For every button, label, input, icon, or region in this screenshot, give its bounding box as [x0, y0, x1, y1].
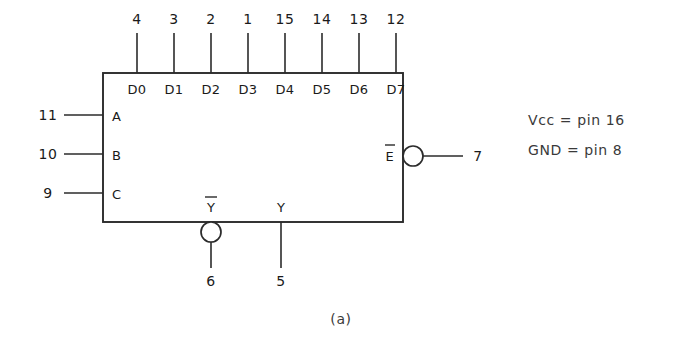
output-ybar-group: Y 6	[201, 197, 221, 289]
pin-number-d6: 13	[350, 11, 369, 27]
logic-symbol-diagram: 4 3 2 1 15 14 13 12 D0 D1 D2 D3 D4 D5 D6…	[0, 0, 683, 353]
pin-number-d1: 3	[169, 11, 178, 27]
ybar-inversion-bubble-icon	[201, 222, 221, 242]
diagram-canvas: 4 3 2 1 15 14 13 12 D0 D1 D2 D3 D4 D5 D6…	[0, 0, 683, 353]
port-label-c: C	[112, 187, 121, 202]
port-label-y: Y	[276, 200, 285, 215]
port-label-d4: D4	[276, 82, 295, 97]
pin-number-select-b: 10	[39, 146, 58, 162]
pin-number-ybar: 6	[206, 273, 215, 289]
port-label-d5: D5	[313, 82, 332, 97]
port-label-d1: D1	[165, 82, 184, 97]
port-label-enable: E	[385, 149, 394, 164]
power-note-vcc: Vcc = pin 16	[528, 112, 625, 128]
pin-number-d2: 2	[206, 11, 215, 27]
port-label-b: B	[112, 148, 121, 163]
select-input-pin-numbers: 11 10 9	[39, 107, 58, 201]
port-label-d7: D7	[387, 82, 406, 97]
port-label-d0: D0	[128, 82, 147, 97]
port-label-d3: D3	[239, 82, 258, 97]
pin-number-select-c: 9	[43, 185, 52, 201]
port-label-d2: D2	[202, 82, 221, 97]
pin-number-d0: 4	[132, 11, 141, 27]
port-label-a: A	[112, 109, 121, 124]
pin-number-enable: 7	[473, 148, 482, 164]
pin-number-d4: 15	[276, 11, 295, 27]
pin-number-select-a: 11	[39, 107, 58, 123]
power-note-gnd: GND = pin 8	[528, 142, 622, 158]
enable-inversion-bubble-icon	[403, 146, 423, 166]
select-input-port-labels: A B C	[112, 109, 121, 202]
data-input-port-labels: D0 D1 D2 D3 D4 D5 D6 D7	[128, 82, 406, 97]
data-input-leads	[137, 33, 396, 73]
pin-number-d3: 1	[243, 11, 252, 27]
data-input-pin-numbers: 4 3 2 1 15 14 13 12	[132, 11, 405, 27]
pin-number-d5: 14	[313, 11, 332, 27]
power-notes: Vcc = pin 16 GND = pin 8	[528, 112, 625, 158]
figure-caption: (a)	[330, 311, 351, 327]
enable-input-group: E 7	[385, 145, 483, 166]
pin-number-y: 5	[276, 273, 285, 289]
output-y-group: Y 5	[276, 200, 286, 289]
port-label-ybar: Y	[206, 200, 215, 215]
select-input-leads	[64, 115, 103, 193]
port-label-d6: D6	[350, 82, 369, 97]
pin-number-d7: 12	[387, 11, 406, 27]
